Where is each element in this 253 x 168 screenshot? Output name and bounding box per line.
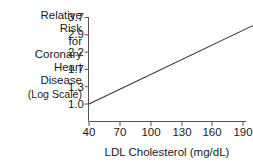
plot-area [0, 0, 253, 168]
risk-trend-line [89, 23, 253, 104]
chart-figure: Relative Risk for Coronary Heart Disease… [0, 0, 253, 168]
